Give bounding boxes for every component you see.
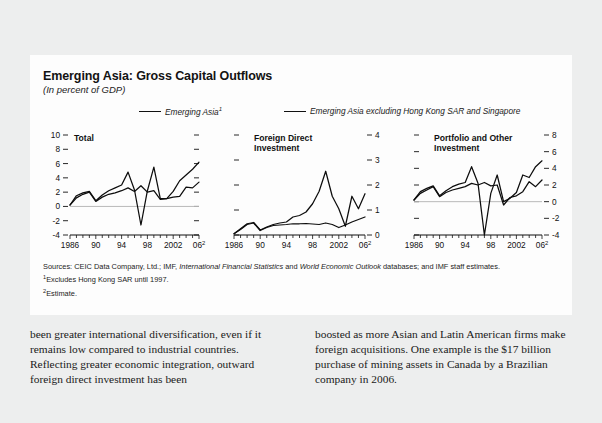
svg-text:8: 8: [552, 130, 557, 140]
plot-area-total: -4-2024681019869094982002062: [40, 127, 215, 257]
svg-text:062: 062: [193, 240, 205, 250]
svg-text:1: 1: [375, 205, 380, 215]
svg-text:4: 4: [375, 130, 380, 140]
svg-text:8: 8: [55, 144, 60, 154]
footnote-2: 2Estimate.: [43, 286, 563, 300]
svg-text:90: 90: [435, 240, 445, 250]
figure-subtitle: (In percent of GDP): [43, 84, 125, 95]
svg-text:98: 98: [143, 240, 153, 250]
legend-label-1: Emerging Asia excluding Hong Kong SAR an…: [310, 106, 520, 116]
svg-text:-4: -4: [552, 230, 560, 240]
svg-text:90: 90: [91, 240, 101, 250]
svg-text:062: 062: [359, 240, 371, 250]
svg-text:1986: 1986: [61, 240, 80, 250]
chart-legend: Emerging Asia1 Emerging Asia excluding H…: [125, 106, 565, 120]
legend-item-emerging-asia-excl: Emerging Asia excluding Hong Kong SAR an…: [284, 106, 520, 116]
svg-text:2002: 2002: [164, 240, 183, 250]
chart-panel-total: Total -4-2024681019869094982002062: [40, 127, 215, 257]
svg-text:94: 94: [117, 240, 127, 250]
svg-text:6: 6: [55, 159, 60, 169]
legend-line-swatch-0: [139, 111, 161, 112]
chart-panel-fdi: Foreign Direct Investment 01234198690949…: [220, 127, 395, 257]
svg-text:98: 98: [308, 240, 318, 250]
figure-title: Emerging Asia: Gross Capital Outflows: [43, 69, 272, 83]
legend-line-swatch-1: [284, 111, 306, 112]
plot-area-fdi: 0123419869094982002062: [220, 127, 395, 257]
svg-text:94: 94: [461, 240, 471, 250]
footnote-1: 1Excludes Hong Kong SAR until 1997.: [43, 272, 563, 286]
svg-text:0: 0: [552, 197, 557, 207]
svg-text:2: 2: [55, 187, 60, 197]
svg-text:94: 94: [282, 240, 292, 250]
svg-text:062: 062: [536, 240, 548, 250]
body-column-right: boosted as more Asian and Latin American…: [315, 327, 572, 387]
plot-area-portfolio: -4-20246819869094982002062: [400, 127, 572, 257]
legend-item-emerging-asia: Emerging Asia1: [139, 106, 222, 117]
legend-label-0: Emerging Asia1: [165, 106, 222, 117]
svg-text:-4: -4: [53, 230, 61, 240]
body-text: been greater international diversificati…: [30, 327, 572, 387]
svg-text:4: 4: [552, 163, 557, 173]
body-column-left: been greater international diversificati…: [30, 327, 287, 387]
page-background: Emerging Asia: Gross Capital Outflows (I…: [0, 0, 602, 423]
svg-text:6: 6: [552, 147, 557, 157]
figure-sources: Sources: CEIC Data Company, Ltd.; IMF, I…: [43, 262, 563, 300]
svg-text:0: 0: [375, 230, 380, 240]
svg-text:2002: 2002: [507, 240, 526, 250]
svg-text:3: 3: [375, 155, 380, 165]
svg-text:10: 10: [51, 130, 61, 140]
svg-text:4: 4: [55, 173, 60, 183]
sources-line: Sources: CEIC Data Company, Ltd.; IMF, I…: [43, 262, 563, 272]
svg-text:2: 2: [552, 180, 557, 190]
svg-text:2: 2: [375, 180, 380, 190]
svg-text:0: 0: [55, 201, 60, 211]
svg-text:-2: -2: [552, 213, 560, 223]
chart-panel-portfolio: Portfolio and Other Investment -4-202468…: [400, 127, 572, 257]
svg-text:1986: 1986: [225, 240, 244, 250]
svg-text:1986: 1986: [405, 240, 424, 250]
svg-text:98: 98: [486, 240, 496, 250]
svg-text:90: 90: [256, 240, 266, 250]
svg-text:2002: 2002: [330, 240, 349, 250]
figure-box: Emerging Asia: Gross Capital Outflows (I…: [30, 55, 572, 315]
svg-text:-2: -2: [53, 216, 61, 226]
